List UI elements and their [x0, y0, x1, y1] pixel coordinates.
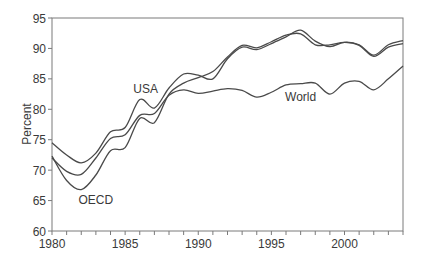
- series-label-usa: USA: [133, 82, 158, 96]
- x-tick-label: 1980: [39, 237, 66, 251]
- y-tick-label: 95: [33, 12, 47, 26]
- chart-svg: 606570758085909519801985199019952000 USA…: [0, 0, 422, 263]
- series-labels: USAOECDWorld: [79, 82, 317, 207]
- y-tick-label: 70: [33, 164, 47, 178]
- series-line-usa: [52, 30, 403, 163]
- y-tick-label: 65: [33, 194, 47, 208]
- x-tick-label: 1990: [185, 237, 212, 251]
- y-tick-label: 90: [33, 42, 47, 56]
- series-line-oecd: [52, 33, 403, 190]
- line-chart: 606570758085909519801985199019952000 USA…: [0, 0, 422, 263]
- y-tick-label: 80: [33, 103, 47, 117]
- series-lines: [52, 30, 403, 190]
- x-tick-label: 1985: [112, 237, 139, 251]
- y-tick-label: 75: [33, 133, 47, 147]
- y-tick-label: 85: [33, 72, 47, 86]
- series-label-oecd: OECD: [79, 193, 114, 207]
- series-label-world: World: [285, 90, 316, 104]
- x-tick-label: 1995: [258, 237, 285, 251]
- x-tick-label: 2000: [331, 237, 358, 251]
- y-axis-label: Percent: [20, 103, 34, 145]
- axes: 606570758085909519801985199019952000: [33, 12, 403, 252]
